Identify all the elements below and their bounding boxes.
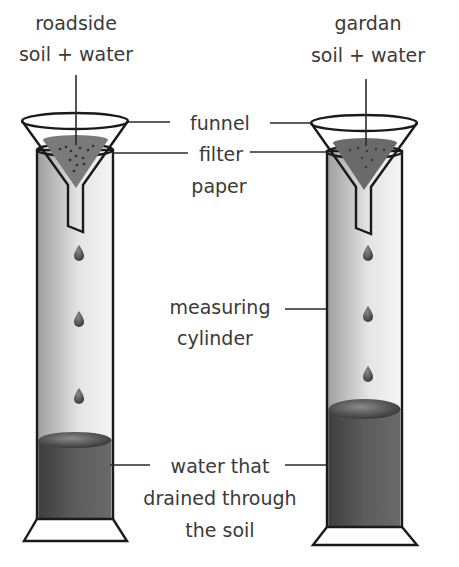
label-garden-line2: soil + water (311, 44, 425, 66)
label-filter-paper: filter paper (112, 143, 327, 197)
label-measuring-cylinder: measuring cylinder (170, 296, 327, 349)
label-drained-line3: the soil (185, 519, 254, 541)
label-drained-water: water that drained through the soil (110, 455, 327, 541)
label-funnel-text: funnel (190, 112, 250, 134)
label-roadside-line1: roadside (35, 12, 117, 34)
cylinder-base-right (313, 527, 417, 545)
label-drained-line2: drained through (143, 487, 296, 509)
garden-setup (311, 79, 417, 545)
label-roadside-soil: roadside soil + water (19, 12, 133, 65)
label-funnel: funnel (128, 112, 312, 134)
drained-water-right (329, 399, 401, 527)
label-garden-line1: gardan (335, 12, 402, 34)
label-cylinder-text: cylinder (177, 327, 253, 349)
soil-drainage-diagram: roadside soil + water gardan soil + wate… (0, 0, 459, 567)
label-measuring-text: measuring (170, 296, 271, 318)
label-filter-text: filter (199, 143, 243, 165)
label-paper-text: paper (191, 175, 246, 197)
label-drained-line1: water that (171, 455, 270, 477)
drained-water-left (39, 432, 112, 519)
cylinder-base-left (24, 519, 127, 541)
roadside-setup (22, 75, 128, 541)
label-roadside-line2: soil + water (19, 43, 133, 65)
label-garden-soil: gardan soil + water (311, 12, 425, 66)
